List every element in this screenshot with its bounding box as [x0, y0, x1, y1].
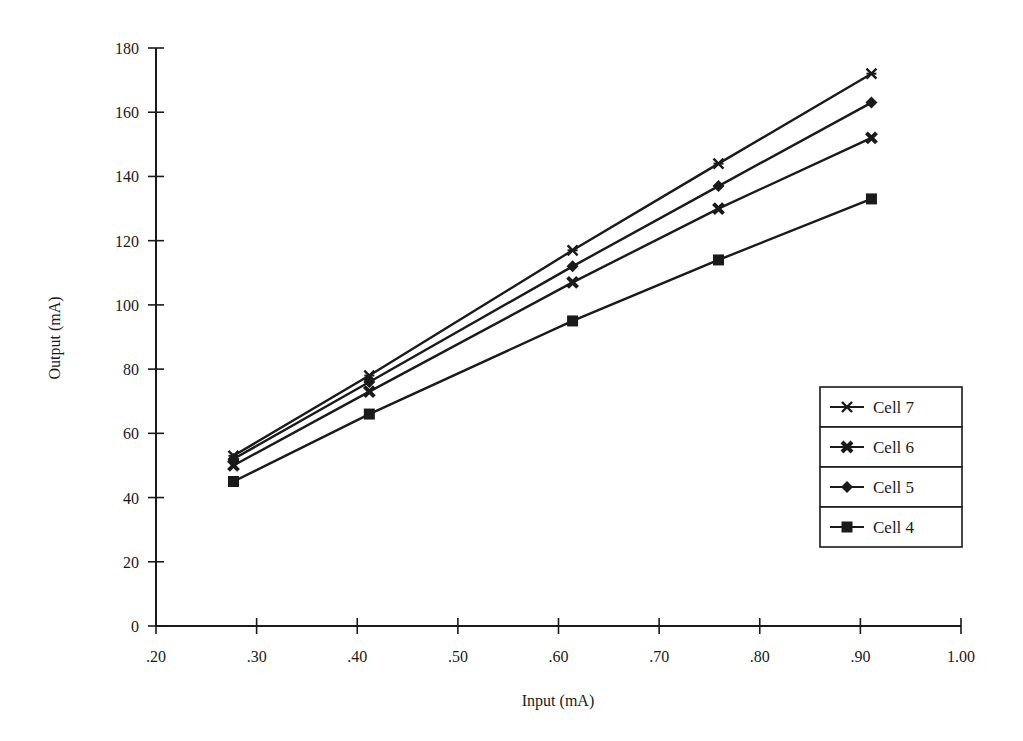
legend-label: Cell 6 — [873, 438, 914, 457]
y-tick-label: 80 — [123, 361, 139, 378]
legend-item-cell-7: Cell 7 — [820, 387, 962, 427]
square-marker-icon — [364, 409, 375, 420]
asterisk-marker-icon — [568, 245, 578, 255]
x-tick-label: .50 — [448, 648, 468, 665]
legend-item-cell-6: Cell 6 — [820, 427, 962, 467]
y-tick-label: 180 — [115, 40, 139, 57]
asterisk-marker-icon — [713, 159, 723, 169]
y-axis-label: Output (mA) — [46, 296, 64, 379]
diamond-marker-icon — [567, 260, 579, 272]
square-marker-icon — [228, 476, 239, 487]
legend-label: Cell 4 — [873, 518, 915, 537]
y-tick-label: 140 — [115, 168, 139, 185]
x-bold-marker-icon — [568, 277, 578, 287]
series-cell-7 — [228, 69, 876, 461]
legend-item-cell-5: Cell 5 — [820, 467, 962, 507]
x-tick-label: .80 — [750, 648, 770, 665]
axes: 020406080100120140160180.20.30.40.50.60.… — [115, 40, 975, 665]
square-marker-icon — [842, 522, 853, 533]
legend-label: Cell 5 — [873, 478, 914, 497]
x-tick-label: .90 — [850, 648, 870, 665]
series-cell-6 — [228, 133, 876, 471]
line-chart: 020406080100120140160180.20.30.40.50.60.… — [0, 0, 1023, 741]
y-tick-label: 120 — [115, 233, 139, 250]
x-axis-label: Input (mA) — [522, 692, 594, 710]
x-bold-marker-icon — [364, 387, 374, 397]
y-tick-label: 20 — [123, 554, 139, 571]
x-tick-label: .30 — [247, 648, 267, 665]
y-tick-label: 60 — [123, 425, 139, 442]
x-tick-label: .40 — [347, 648, 367, 665]
y-tick-label: 160 — [115, 104, 139, 121]
x-tick-label: 1.00 — [947, 648, 975, 665]
y-tick-label: 100 — [115, 297, 139, 314]
square-marker-icon — [567, 315, 578, 326]
legend: Cell 7Cell 6Cell 5Cell 4 — [820, 387, 962, 547]
x-tick-label: .20 — [146, 648, 166, 665]
x-bold-marker-icon — [713, 204, 723, 214]
legend-item-cell-4: Cell 4 — [820, 507, 962, 547]
diamond-marker-icon — [712, 180, 724, 192]
x-tick-label: .60 — [549, 648, 569, 665]
diamond-marker-icon — [865, 97, 877, 109]
y-tick-label: 40 — [123, 490, 139, 507]
square-marker-icon — [866, 193, 877, 204]
series-cell-5 — [227, 97, 877, 465]
data-series — [227, 69, 877, 487]
square-marker-icon — [713, 254, 724, 265]
y-tick-label: 0 — [131, 618, 139, 635]
series-cell-4 — [228, 193, 877, 487]
x-bold-marker-icon — [866, 133, 876, 143]
x-tick-label: .70 — [649, 648, 669, 665]
legend-label: Cell 7 — [873, 398, 915, 417]
asterisk-marker-icon — [866, 69, 876, 79]
